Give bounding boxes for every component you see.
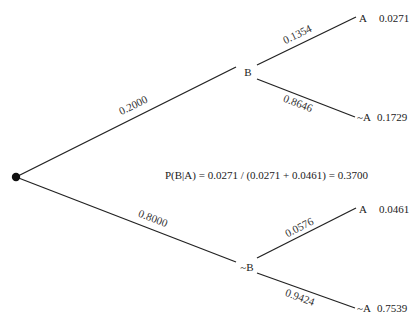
node-label-not-b: ~B bbox=[240, 261, 253, 273]
leaf-label-not-b-a: A bbox=[359, 203, 367, 215]
node-label-b: B bbox=[244, 66, 251, 78]
leaf-joint-prob-b-not-a: 0.1729 bbox=[377, 111, 407, 123]
leaf-label-not-b-not-a: ~A bbox=[357, 302, 371, 314]
leaf-joint-prob-b-a: 0.0271 bbox=[379, 12, 409, 24]
leaf-label-b-not-a: ~A bbox=[357, 111, 371, 123]
leaf-joint-prob-not-b-a: 0.0461 bbox=[379, 203, 409, 215]
leaf-joint-prob-not-b-not-a: 0.7539 bbox=[377, 302, 407, 314]
edge-root-to-b bbox=[16, 67, 236, 177]
root-node-dot bbox=[12, 173, 20, 181]
bayes-formula: P(B|A) = 0.0271 / (0.0271 + 0.0461) = 0.… bbox=[165, 169, 368, 181]
edge-root-to-not-b bbox=[16, 177, 236, 262]
leaf-label-b-a: A bbox=[359, 12, 367, 24]
probability-tree bbox=[0, 0, 419, 326]
